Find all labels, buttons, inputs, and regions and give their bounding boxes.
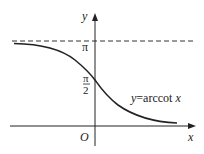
graph-canvas: y x O π π 2 y=arccot x xyxy=(0,0,204,154)
half-pi-denominator: 2 xyxy=(83,84,89,96)
x-axis-label: x xyxy=(187,130,194,144)
y-axis-label: y xyxy=(81,9,88,23)
function-label: y=arccot x xyxy=(130,91,181,105)
half-pi-numerator: π xyxy=(83,72,89,84)
pi-tick-label: π xyxy=(82,40,88,54)
x-axis-arrow-icon xyxy=(188,123,196,129)
y-axis-arrow-icon xyxy=(92,13,98,21)
arccot-graph: y x O π π 2 y=arccot x xyxy=(0,0,204,154)
origin-label: O xyxy=(80,130,89,144)
